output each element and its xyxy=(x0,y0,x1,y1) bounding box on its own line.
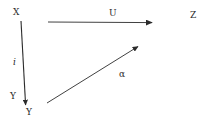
edge-label-i: i xyxy=(13,58,16,67)
edge-label-u: U xyxy=(109,9,117,18)
arrow-u-line xyxy=(48,22,152,23)
node-label-y-secondary: Y xyxy=(26,108,32,117)
node-label-z: Z xyxy=(190,11,196,20)
node-label-x: X xyxy=(13,8,19,17)
node-label-y: Y xyxy=(10,92,16,101)
arrow-i-line xyxy=(21,21,26,105)
edge-label-alpha: α xyxy=(119,70,125,79)
math-diagram-canvas: X Z Y Y U i α xyxy=(0,0,202,126)
